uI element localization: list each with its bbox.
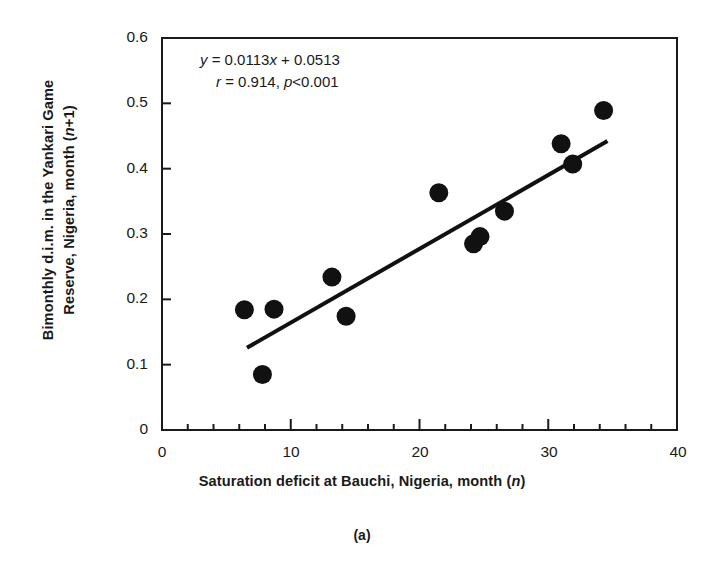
figure-container: Bimonthly d.i.m. in the Yankari Game Res… <box>0 0 724 574</box>
data-point-11 <box>594 101 613 120</box>
data-point-4 <box>337 307 356 326</box>
data-point-7 <box>471 227 490 246</box>
x-axis-title: Saturation deficit at Bauchi, Nigeria, m… <box>0 473 724 489</box>
data-point-8 <box>495 202 514 221</box>
data-point-10 <box>563 155 582 174</box>
data-point-0 <box>235 300 254 319</box>
regression-line <box>247 141 607 348</box>
data-point-9 <box>552 134 571 153</box>
fit-line <box>247 141 607 348</box>
data-point-1 <box>253 365 272 384</box>
axis-frame <box>162 38 677 430</box>
plot-frame <box>162 38 677 430</box>
data-point-5 <box>429 183 448 202</box>
data-point-2 <box>265 300 284 319</box>
data-points <box>235 101 613 384</box>
data-point-3 <box>322 268 341 287</box>
figure-caption: (a) <box>0 527 724 543</box>
axis-ticks <box>162 38 677 430</box>
